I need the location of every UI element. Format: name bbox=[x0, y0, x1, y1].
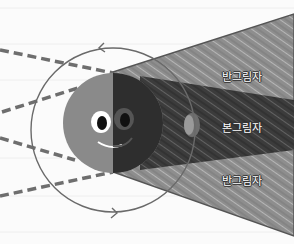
eclipse-diagram: 반그림자 본그림자 반그림자 bbox=[0, 0, 294, 244]
umbra-label: 본그림자 bbox=[222, 119, 262, 135]
penumbra-label-top: 반그림자 bbox=[222, 68, 262, 84]
moon bbox=[184, 113, 200, 137]
earth bbox=[63, 73, 163, 173]
penumbra-label-bottom: 반그림자 bbox=[222, 172, 262, 188]
